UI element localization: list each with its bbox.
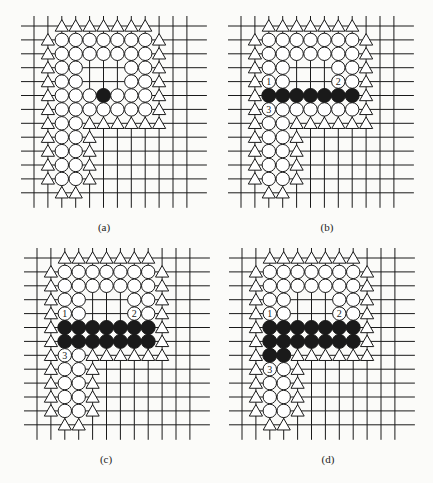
triangle-marker-icon (276, 186, 289, 198)
white-stone (55, 89, 68, 102)
white-stone (72, 307, 85, 320)
triangle-marker-icon (41, 131, 54, 143)
white-stone (72, 265, 85, 278)
go-board-b: 123 (241, 26, 242, 27)
triangle-marker-icon (249, 363, 262, 375)
triangle-marker-icon (41, 103, 54, 115)
white-stone (97, 33, 110, 46)
white-stone (100, 279, 113, 292)
white-stone (69, 117, 82, 130)
stone-label-1: 1 (62, 308, 67, 319)
black-stone (58, 334, 72, 348)
triangle-marker-icon (153, 61, 166, 73)
stone-label-3: 3 (62, 350, 67, 361)
triangle-marker-icon (262, 20, 275, 32)
white-stone (333, 279, 346, 292)
triangle-marker-icon (346, 20, 359, 32)
white-stone (139, 89, 152, 102)
white-stone (55, 117, 68, 130)
triangle-marker-icon (86, 363, 99, 375)
white-stone (100, 265, 113, 278)
white-stone (262, 172, 275, 185)
white-stone (125, 103, 138, 116)
white-stone (86, 265, 99, 278)
triangle-marker-icon (319, 349, 332, 361)
triangle-marker-icon (44, 293, 57, 305)
triangle-marker-icon (153, 103, 166, 115)
white-stone (262, 158, 275, 171)
black-stone (318, 334, 332, 348)
white-stone (277, 390, 290, 403)
triangle-marker-icon (153, 75, 166, 87)
triangle-marker-icon (360, 117, 373, 129)
triangle-marker-icon (361, 307, 374, 319)
triangle-marker-icon (41, 61, 54, 73)
black-stone (72, 321, 86, 335)
stone-label-1: 1 (267, 308, 272, 319)
triangle-marker-icon (142, 349, 155, 361)
triangle-marker-icon (153, 89, 166, 101)
white-stone (69, 89, 82, 102)
triangle-marker-icon (304, 117, 317, 129)
triangle-marker-icon (291, 405, 304, 417)
black-stone (290, 89, 304, 103)
white-stone (58, 293, 71, 306)
triangle-marker-icon (142, 252, 155, 263)
black-stone (141, 334, 155, 348)
triangle-marker-icon (69, 20, 82, 32)
white-stone (262, 144, 275, 157)
triangle-marker-icon (290, 173, 303, 185)
white-stone (277, 307, 290, 320)
white-stone (58, 279, 71, 292)
white-stone (291, 279, 304, 292)
white-stone (58, 265, 71, 278)
stone-label-2: 2 (337, 308, 342, 319)
white-stone (55, 144, 68, 157)
white-stone (276, 131, 289, 144)
white-stone (263, 390, 276, 403)
triangle-marker-icon (44, 321, 57, 333)
white-stone (111, 33, 124, 46)
triangle-marker-icon (249, 279, 262, 291)
white-stone (263, 376, 276, 389)
white-stone (276, 33, 289, 46)
black-stone (345, 89, 359, 103)
white-stone (58, 404, 71, 417)
black-stone (277, 334, 291, 348)
triangle-marker-icon (290, 159, 303, 171)
white-stone (332, 103, 345, 116)
triangle-marker-icon (128, 349, 141, 361)
triangle-marker-icon (125, 117, 138, 129)
white-stone (125, 61, 138, 74)
white-stone (97, 103, 110, 116)
triangle-marker-icon (304, 20, 317, 32)
white-stone (304, 33, 317, 46)
triangle-marker-icon (249, 349, 262, 361)
black-stone (305, 334, 319, 348)
triangle-marker-icon (100, 349, 113, 361)
black-stone (100, 334, 114, 348)
black-stone (86, 321, 100, 335)
black-stone (86, 334, 100, 348)
triangle-marker-icon (248, 61, 261, 73)
white-stone (277, 293, 290, 306)
triangle-marker-icon (83, 20, 96, 32)
triangle-marker-icon (114, 349, 127, 361)
black-stone (127, 321, 141, 335)
triangle-marker-icon (111, 117, 124, 129)
caption-c: (c) (100, 453, 112, 465)
white-stone (128, 265, 141, 278)
triangle-marker-icon (360, 34, 373, 46)
triangle-marker-icon (83, 173, 96, 185)
white-stone (276, 47, 289, 60)
white-stone (69, 158, 82, 171)
triangle-marker-icon (156, 293, 169, 305)
black-stone (277, 321, 291, 335)
triangle-marker-icon (248, 117, 261, 129)
white-stone (277, 265, 290, 278)
white-stone (139, 75, 152, 88)
black-stone (72, 334, 86, 348)
triangle-marker-icon (153, 34, 166, 46)
white-stone (69, 131, 82, 144)
triangle-marker-icon (248, 75, 261, 87)
